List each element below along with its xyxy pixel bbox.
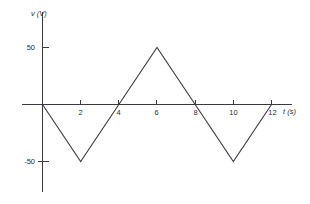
plot-svg: 2 4 6 8 10 12 50 -50 v (V) t (s) [0, 0, 310, 204]
waveform-figure: 2 4 6 8 10 12 50 -50 v (V) t (s) [0, 0, 310, 204]
xtick-label-12: 12 [268, 108, 276, 117]
xtick-label-4: 4 [116, 108, 120, 117]
xtick-label-8: 8 [193, 108, 197, 117]
y-axis-title: v (V) [31, 9, 47, 18]
ytick-label-neg50: -50 [24, 157, 35, 166]
xtick-label-2: 2 [78, 108, 82, 117]
xtick-label-10: 10 [229, 108, 237, 117]
ytick-label-50: 50 [27, 43, 35, 52]
xtick-label-6: 6 [154, 108, 158, 117]
x-axis-title: t (s) [283, 107, 296, 116]
